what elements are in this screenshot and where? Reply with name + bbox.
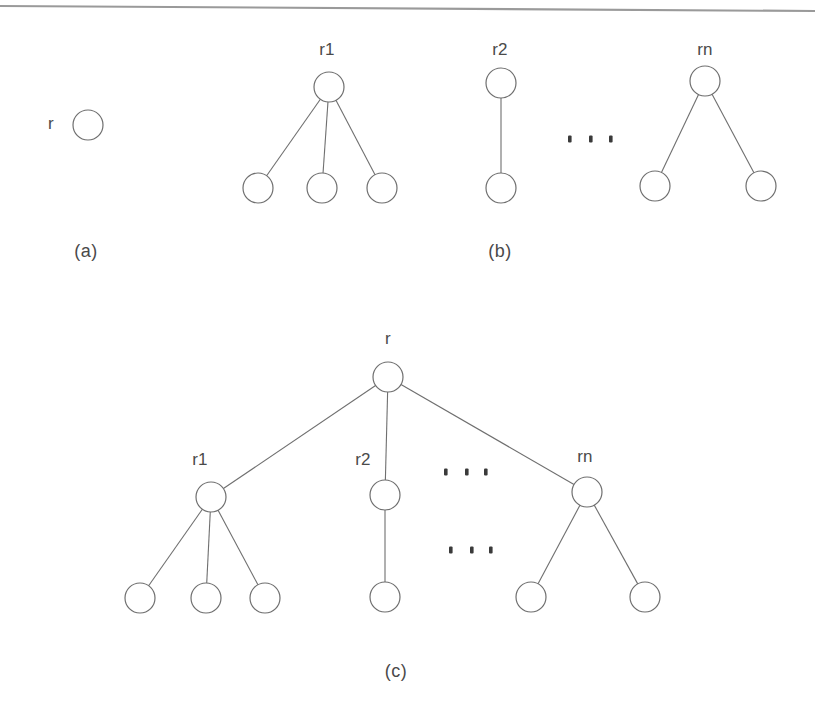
panel-c-subtree-1-root-node [196,482,226,512]
panel-c-root-edge-2 [385,392,387,480]
figure-container: r (a) r1 r2 rn (b) r r1 r2 rn (c) [0,0,815,715]
panel-b-tree2-root-node [486,68,516,98]
tree-diagram-svg: r (a) r1 r2 rn (b) r r1 r2 rn (c) [0,0,815,715]
panel-c-root-node [373,362,403,392]
panel-b-caption: (b) [488,241,512,261]
panel-c-root-label: r [385,329,391,348]
panel-a-root-node [73,110,103,140]
panel-b-treen-edge-2 [712,94,754,173]
panel-b-treen-edge-1 [661,95,698,173]
panel-c-lower-ellipsis-dot-2 [470,547,474,554]
panel-b-tree2-root-label: r2 [492,40,508,59]
panel-c-subtree-3-leaf-node-1 [516,582,546,612]
panel-c-subtree-1-leaf-node-1 [125,583,155,613]
panel-b-treen-leaf-node-2 [746,171,776,201]
panel-b-tree1-edge-1 [267,99,321,175]
panel-c-subtree-2-leaf-node-1 [370,582,400,612]
panel-c-subtree-3-leaf-node-2 [630,582,660,612]
panel-b-tree-r1 [243,72,397,203]
panel-a-root-label: r [48,114,54,133]
panel-b-tree1-leaf-node-1 [243,173,273,203]
panel-c-subtree-3-edge-1 [538,505,580,584]
panel-c-upper-ellipsis-dot-1 [444,469,448,476]
panel-a: r (a) [48,110,103,261]
panel-c-subtree-1-edge-3 [218,510,258,585]
panel-b-ellipsis-dot-3 [609,136,613,143]
panel-b-tree1-leaf-node-3 [367,173,397,203]
panel-b-tree1-root-label: r1 [319,40,335,59]
panel-b-tree1-root-node [314,72,344,102]
panel-c-upper-ellipsis-dot-2 [465,469,469,476]
panel-b-ellipsis-dot-1 [568,136,572,143]
panel-b-tree2-leaf-node-1 [486,173,516,203]
top-rule-line [0,6,815,11]
panel-c-subtree-rn-label: rn [577,447,593,466]
panel-c-subtree-1-edge-1 [149,509,203,585]
panel-b-tree-r2 [486,68,516,203]
panel-b-tree1-edge-3 [336,100,375,174]
panel-b-ellipsis [568,136,613,143]
panel-c-lower-ellipsis-dot-3 [489,547,493,554]
panel-b-treen-leaf-node-1 [640,171,670,201]
panel-b-treen-root-label: rn [697,40,713,59]
panel-c: r r1 r2 rn (c) [125,329,660,680]
panel-b-tree1-leaf-node-2 [307,173,337,203]
panel-b-treen-root-node [690,66,720,96]
panel-b-tree-rn [640,66,776,201]
panel-c-ellipsis [444,469,493,554]
top-rule-group [0,6,815,11]
panel-c-root-edge-1 [223,385,375,488]
panel-c-nodes [125,362,660,613]
panel-c-lower-ellipsis-dot-1 [449,547,453,554]
panel-c-subtree-2-root-node [370,480,400,510]
panel-c-subtree-r1-label: r1 [192,450,208,469]
panel-b-ellipsis-dot-2 [589,136,593,143]
panel-c-subtree-1-leaf-node-2 [191,583,221,613]
panel-c-subtree-1-edge-2 [207,512,211,583]
panel-c-subtree-3-edge-2 [594,505,638,584]
panel-c-subtree-1-leaf-node-3 [250,583,280,613]
panel-c-upper-ellipsis-dot-3 [484,469,488,476]
panel-b-tree1-edge-2 [323,102,328,173]
panel-c-subtree-r2-label: r2 [355,450,371,469]
panel-c-edges [149,385,638,586]
panel-c-caption: (c) [385,661,408,681]
panel-c-subtree-3-root-node [572,477,602,507]
panel-a-caption: (a) [74,241,98,261]
panel-b: r1 r2 rn (b) [243,40,776,260]
